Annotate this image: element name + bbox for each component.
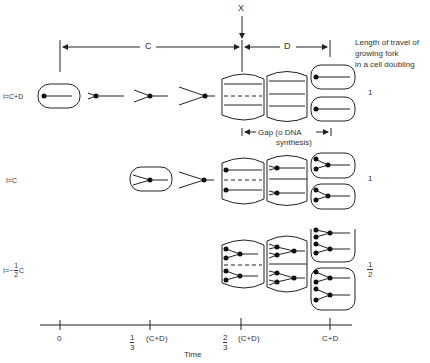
tick-two-thirds-frac: 2 3 bbox=[223, 333, 227, 352]
tick-two-thirds-suffix: (C+D) bbox=[238, 333, 260, 344]
row-3-cells bbox=[222, 229, 355, 310]
row-1-cells bbox=[38, 65, 355, 122]
time-axis-label: Time bbox=[184, 349, 201, 360]
tick-c-plus-d: C+D bbox=[322, 333, 338, 344]
gap-label-line2: synthesis) bbox=[276, 137, 312, 148]
c-label: C bbox=[145, 41, 152, 52]
row-2-fork-travel: 1 bbox=[368, 173, 372, 184]
row-2-cells bbox=[130, 153, 355, 209]
row-3-label: I=~ 1 2 C bbox=[3, 262, 24, 279]
tick-one-third-frac: 1 3 bbox=[130, 333, 134, 352]
row-2-label: I=C bbox=[6, 175, 17, 186]
d-label: D bbox=[284, 41, 291, 52]
row-3-fork-travel: 1 2 bbox=[367, 260, 373, 279]
row-1-fork-travel: 1 bbox=[368, 87, 372, 98]
row-1-label: I=C+D bbox=[3, 91, 23, 102]
tick-one-third-suffix: (C+D) bbox=[146, 333, 168, 344]
tick-0: 0 bbox=[57, 333, 61, 344]
legend-text: Length of travel of growing fork in a ce… bbox=[355, 37, 419, 70]
replication-origin-dots bbox=[42, 75, 333, 303]
x-marker-label: X bbox=[238, 3, 244, 14]
